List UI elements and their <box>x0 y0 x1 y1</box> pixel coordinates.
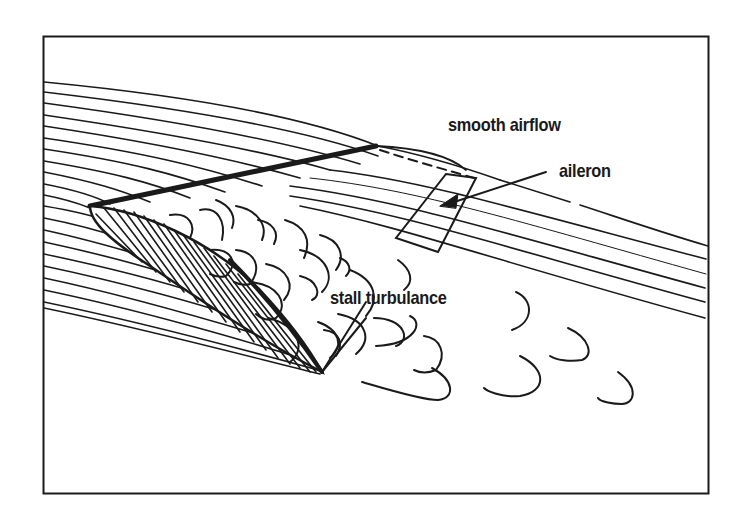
wing-airfoil-section <box>90 206 322 372</box>
stall-turbulance-label: stall turbulance <box>330 287 447 309</box>
aileron-label: aileron <box>559 160 611 182</box>
smooth-airflow-label: smooth airflow <box>448 114 561 136</box>
wing-trailing-edge <box>322 302 366 372</box>
diagram-canvas: smooth airflow aileron stall turbulance <box>0 0 743 516</box>
diagram-drawing <box>0 0 743 516</box>
streamlines-upper <box>44 82 378 208</box>
wing-leading-edge <box>90 146 376 206</box>
wingtip-outline <box>376 146 466 170</box>
